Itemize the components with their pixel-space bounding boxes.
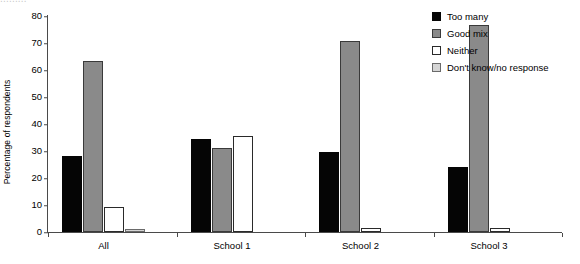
bar-group-all	[62, 16, 191, 232]
x-tick-mark-school-2	[305, 233, 306, 237]
y-tick-mark	[44, 16, 48, 17]
y-tick-mark	[44, 205, 48, 206]
y-tick-label: 60	[31, 64, 42, 75]
bar-group-school-2	[319, 16, 448, 232]
x-tick-mark-all	[48, 233, 49, 237]
y-tick-40: 40	[31, 119, 48, 129]
bar-all-too-many	[62, 156, 82, 232]
bar-school-1-too-many	[191, 139, 211, 232]
y-tick-60: 60	[31, 65, 48, 75]
legend-item-good-mix: Good mix	[432, 25, 580, 42]
dark-gray-square-swatch	[432, 29, 441, 38]
y-tick-mark	[44, 97, 48, 98]
y-tick-label: 70	[31, 37, 42, 48]
x-axis-label-school-3: School 3	[439, 240, 539, 252]
y-tick-30: 30	[31, 146, 48, 156]
x-axis-label-school-1: School 1	[182, 240, 282, 252]
y-tick-50: 50	[31, 92, 48, 102]
y-tick-label: 40	[31, 118, 42, 129]
y-tick-label: 10	[31, 199, 42, 210]
y-tick-mark	[44, 151, 48, 152]
y-axis-title: Percentage of respondents	[0, 0, 14, 264]
y-tick-70: 70	[31, 38, 48, 48]
bar-school-1-neither	[233, 136, 253, 232]
y-tick-mark	[44, 43, 48, 44]
x-tick-mark-school-3	[434, 233, 435, 237]
x-axis-label-school-2: School 2	[311, 240, 411, 252]
legend-item-neither: Neither	[432, 42, 580, 59]
bar-school-3-too-many	[448, 167, 468, 232]
bar-school-1-good-mix	[212, 148, 232, 232]
bar-school-3-neither	[490, 228, 510, 232]
y-tick-label: 30	[31, 145, 42, 156]
legend-label: Neither	[447, 45, 478, 56]
y-tick-80: 80	[31, 11, 48, 21]
legend-label: Don't know/no response	[447, 62, 549, 73]
y-tick-label: 80	[31, 10, 42, 21]
y-tick-mark	[44, 178, 48, 179]
bar-all-neither	[104, 207, 124, 232]
legend-item-don-t-know-no-response: Don't know/no response	[432, 59, 580, 76]
y-tick-0: 0	[37, 227, 48, 237]
legend-item-too-many: Too many	[432, 8, 580, 25]
chart-legend: Too manyGood mixNeitherDon't know/no res…	[432, 8, 580, 76]
y-tick-20: 20	[31, 173, 48, 183]
bar-all-good-mix	[83, 61, 103, 232]
x-axis-label-all: All	[54, 240, 154, 252]
light-gray-square-swatch	[432, 63, 441, 72]
y-tick-label: 0	[37, 226, 42, 237]
y-tick-label: 50	[31, 91, 42, 102]
legend-label: Good mix	[447, 28, 488, 39]
white-square-swatch	[432, 46, 441, 55]
cropped-title-remnant: .........	[0, 0, 580, 5]
y-tick-mark	[44, 70, 48, 71]
x-tick-mark-end	[562, 233, 563, 237]
bar-school-2-neither	[361, 228, 381, 232]
y-tick-mark	[44, 124, 48, 125]
y-tick-label: 20	[31, 172, 42, 183]
y-tick-10: 10	[31, 200, 48, 210]
bar-all-don-t-know-no-response	[125, 229, 145, 232]
x-tick-mark-school-1	[177, 233, 178, 237]
bar-school-2-good-mix	[340, 41, 360, 232]
bar-chart-figure: ......... Percentage of respondents 0102…	[0, 0, 580, 264]
black-square-swatch	[432, 12, 441, 21]
legend-label: Too many	[447, 11, 488, 22]
bar-group-school-1	[191, 16, 320, 232]
bar-school-2-too-many	[319, 152, 339, 232]
